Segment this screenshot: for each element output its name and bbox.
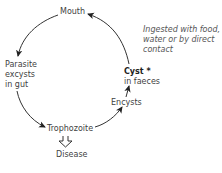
note-line3: contact [143, 45, 173, 55]
note-line2: water or by direct [143, 35, 214, 45]
note-line1: Ingested with food, [143, 25, 220, 35]
node-parasite-line2: excysts [5, 70, 35, 80]
arrow-parasite-to-trophozoite [17, 91, 45, 127]
node-cyst-sub: in faeces [124, 77, 160, 87]
arrow-trophozoite-to-encysts [95, 107, 122, 127]
arrow-cyst-to-mouth [88, 14, 129, 64]
node-parasite-line3: in gut [5, 80, 28, 90]
hollow-arrow-to-disease [59, 136, 72, 147]
node-encysts: Encysts [111, 98, 142, 108]
arrow-mouth-to-parasite [18, 15, 58, 56]
node-cyst-title: Cyst * [124, 67, 151, 77]
arrow-encysts-to-cyst [126, 86, 129, 97]
node-disease: Disease [56, 150, 87, 160]
node-mouth: Mouth [60, 7, 85, 17]
node-parasite-line1: Parasite [5, 60, 37, 70]
node-trophozoite: Trophozoite [47, 124, 93, 134]
